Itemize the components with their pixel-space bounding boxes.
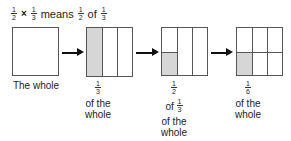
divider — [177, 28, 178, 75]
divider — [267, 28, 268, 75]
shaded-half-third — [162, 52, 177, 75]
caption-line: whole — [85, 109, 111, 120]
divider — [237, 52, 282, 53]
caption-one-sixth: 16 of the whole — [228, 80, 268, 120]
fraction-label: 16 — [245, 80, 251, 95]
times-symbol: × — [21, 8, 27, 19]
caption-line: of the — [235, 98, 260, 109]
box-thirds — [86, 27, 133, 77]
fraction-label: 13 — [95, 80, 101, 95]
box-half-of-third — [161, 27, 208, 76]
fraction-label: 12 — [171, 80, 177, 95]
caption-line: whole — [235, 109, 261, 120]
caption-whole: The whole — [4, 80, 68, 91]
shaded-sixth — [237, 52, 252, 75]
fraction-one-half-2: 12 — [78, 6, 84, 21]
caption-of: of — [165, 101, 173, 112]
divider — [192, 28, 193, 75]
divider — [252, 28, 253, 75]
box-whole — [12, 27, 59, 76]
of-text: of — [88, 8, 97, 20]
box-sixths — [236, 27, 283, 76]
divider — [162, 52, 177, 53]
arrow-icon — [136, 52, 156, 54]
fraction-one-third: 13 — [31, 6, 37, 21]
caption-line: whole — [161, 127, 187, 138]
fraction-one-half: 12 — [11, 6, 17, 21]
divider — [117, 28, 118, 76]
fraction-label-2: 13 — [177, 98, 183, 113]
caption-line: of the — [161, 116, 186, 127]
divider — [102, 28, 103, 76]
fraction-one-third-2: 13 — [101, 6, 107, 21]
title-expression: 12 × 13 means 12 of 13 — [11, 6, 107, 21]
caption-line: of the — [85, 98, 110, 109]
means-text: means — [41, 8, 74, 20]
shaded-third — [87, 28, 102, 76]
arrow-icon — [211, 52, 230, 54]
caption-half-of-third: 12 of 13 of the whole — [154, 80, 194, 138]
caption-one-third: 13 of the whole — [78, 80, 118, 120]
arrow-icon — [62, 52, 81, 54]
